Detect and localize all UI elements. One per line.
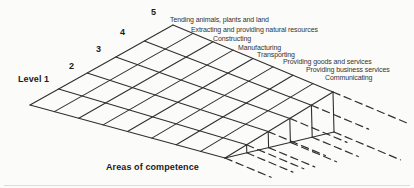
level-tick-5: 5 [151,8,156,17]
level-tick-4: 4 [120,28,125,37]
area-label-communicating: Communicating [325,74,372,81]
level-tick-3: 3 [96,45,101,54]
competence-diagram: Level 1 2 3 4 5 Tending animals, plants … [0,0,414,188]
level-axis-label: Level 1 [18,75,49,84]
area-label-manufacturing: Manufacturing [238,44,281,51]
area-label-constructing: Constructing [213,35,251,42]
areas-axis-label: Areas of competence [106,163,199,172]
scan-artifact-line [4,185,410,186]
area-label-tending-animals: Tending animals, plants and land [170,16,269,23]
level-tick-2: 2 [69,62,74,71]
area-label-extracting: Extracting and providing natural resourc… [191,26,318,33]
area-label-providing-business: Providing business services [306,66,390,73]
area-label-providing-goods: Providing goods and services [283,58,372,65]
area-label-transporting: Transporting [257,51,295,58]
